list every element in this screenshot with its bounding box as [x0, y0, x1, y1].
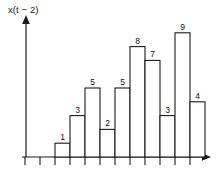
bars-group	[55, 33, 205, 157]
bar-value-label: 3	[161, 105, 175, 115]
bar	[100, 129, 115, 157]
bar	[85, 88, 100, 157]
x-axis-ticks	[25, 157, 190, 165]
bar	[115, 88, 130, 157]
bar	[130, 47, 145, 157]
bar-value-label: 1	[56, 132, 70, 142]
signal-plot-figure: x(t − 2) t 1352587394	[0, 0, 221, 175]
bar	[145, 60, 160, 157]
bar-value-label: 9	[176, 22, 190, 32]
bar-value-label: 5	[86, 77, 100, 87]
bar-value-label: 3	[71, 105, 85, 115]
bar	[55, 143, 70, 157]
bar-value-label: 5	[116, 77, 130, 87]
bar-value-label: 7	[146, 49, 160, 59]
y-axis-arrow-icon	[22, 15, 30, 24]
bar	[70, 116, 85, 157]
bar	[175, 33, 190, 157]
bar-value-label: 4	[191, 91, 205, 101]
bar-value-label: 2	[101, 118, 115, 128]
bar	[160, 116, 175, 157]
bar-value-label: 8	[131, 36, 145, 46]
bar	[190, 102, 205, 157]
